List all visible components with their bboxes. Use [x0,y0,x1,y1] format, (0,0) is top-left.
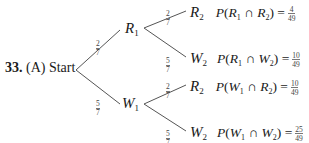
joint-prob-w1-w2: P(W1 ∩ W2) =2549 [217,125,303,140]
node-r2: R2 [190,4,204,20]
node-r2: R2 [190,78,204,94]
problem-label: 33. (A) Start [5,61,75,75]
joint-prob-r1-w2: P(R1 ∩ W2) =1049 [217,51,300,66]
branch-w1-w2 [144,104,186,131]
joint-prob-w1-r2: P(W1 ∩ R2) =1049 [216,79,299,94]
outcome-row-r1-w2: W2 P(R1 ∩ W2) =1049 [190,50,300,68]
joint-prob-r1-r2: P(R1 ∩ R2) =449 [216,5,296,20]
node-w2: W2 [190,124,207,140]
branch-r1-w2 [144,28,186,57]
outcome-row-r1-r2: R2 P(R1 ∩ R2) =449 [190,4,295,22]
node-w1: W1 [122,96,139,113]
problem-part: (A) [26,60,45,75]
branch-prob-w1-r2: 27 [166,76,170,99]
root-label: Start [49,60,75,75]
branch-prob-w1: 57 [96,93,100,116]
branch-prob-r1: 27 [96,33,100,56]
branch-r1-r2 [144,11,186,28]
branch-prob-w1-w2: 57 [166,123,170,143]
problem-number: 33. [5,60,23,75]
branch-w1-r2 [144,85,186,104]
outcome-row-w1-w2: W2 P(W1 ∩ W2) =2549 [190,124,303,142]
node-r1: R1 [125,21,139,38]
node-w2: W2 [190,50,207,66]
outcome-row-w1-r2: R2 P(W1 ∩ R2) =1049 [190,78,298,96]
branch-prob-r1-w2: 57 [166,50,170,73]
branch-prob-r1-r2: 27 [166,3,170,26]
